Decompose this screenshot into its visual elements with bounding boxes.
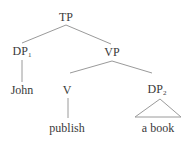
node-subscript: 2 [163,89,167,97]
leaf-label: John [11,83,34,97]
node-subscript: 1 [28,51,32,59]
node-label: VP [104,45,119,59]
node-label: DP [13,44,28,58]
leaf-publish: publish [49,122,84,134]
node-label: TP [59,10,73,24]
leaf-a-book: a book [142,122,174,134]
node-dp1: DP1 [13,45,32,59]
leaf-john: John [11,84,34,96]
edge-vp-v [70,61,112,73]
node-label: V [63,83,72,97]
edge-tp-vp [66,25,111,44]
edge-tp-dp1 [22,25,66,43]
leaf-label: a book [142,121,174,135]
node-v: V [63,84,72,96]
triangle-dp2-a-book [135,99,181,117]
node-tp: TP [59,11,73,23]
leaf-label: publish [49,121,84,135]
edge-vp-dp2 [112,61,152,73]
node-label: DP [148,82,163,96]
tree-edges [0,0,191,141]
node-vp: VP [104,46,119,58]
node-dp2: DP2 [148,83,167,97]
